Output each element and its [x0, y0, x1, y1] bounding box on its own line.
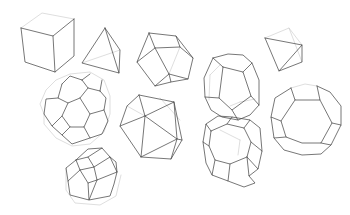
truncated-icosahedron-edge	[100, 80, 102, 91]
truncated-icosahedron-edge	[52, 126, 62, 135]
truncated-icosahedron-edge	[62, 76, 82, 84]
icosahedron-icon	[120, 95, 182, 159]
cuboctahedron-edge	[137, 48, 169, 86]
icosahedron-edge	[120, 116, 145, 157]
tetrahedron-edge	[82, 28, 119, 73]
rhombicuboctahedron-icon	[66, 148, 121, 205]
dodecahedron-edge	[219, 67, 251, 110]
truncated-cuboctahedron-edge	[209, 124, 251, 164]
truncated-octahedron-edge	[271, 88, 291, 117]
rhombicuboctahedron-half-edge	[88, 148, 110, 167]
truncated-octahedron-edge	[271, 117, 286, 138]
tetrahedron-edge	[82, 50, 120, 63]
rhombicuboctahedron-half-edge	[89, 172, 117, 200]
cuboctahedron-edge	[171, 79, 188, 82]
dodecahedron-edge	[210, 65, 220, 75]
cube-edge	[53, 36, 55, 72]
icosahedron-edge	[177, 139, 182, 140]
cuboctahedron-edge	[169, 47, 193, 79]
tetrahedron-icon	[82, 28, 120, 73]
octahedron-edge	[265, 38, 302, 71]
rhombicuboctahedron-half-edge	[94, 157, 117, 180]
rhombicuboctahedron-half-edge	[76, 157, 94, 170]
truncated-cuboctahedron-edge	[228, 176, 255, 187]
truncated-icosahedron-edge	[82, 74, 90, 80]
truncated-cuboctahedron-icon	[203, 116, 262, 187]
truncated-cuboctahedron-edge	[247, 157, 258, 176]
octahedron-edge	[265, 28, 302, 45]
truncated-icosahedron-icon	[40, 72, 110, 146]
icosahedron-edge	[141, 139, 177, 157]
dodecahedron-edge	[213, 58, 223, 67]
truncated-cuboctahedron-edge	[247, 142, 262, 169]
dodecahedron-icon	[204, 54, 259, 120]
cuboctahedron-edge	[169, 47, 180, 74]
truncated-octahedron-edge	[317, 86, 341, 125]
dodecahedron-edge	[209, 75, 210, 100]
truncated-octahedron-edge	[291, 86, 320, 100]
dodecahedron-edge	[251, 96, 259, 105]
cube-edge	[21, 19, 74, 36]
dodecahedron-edge	[232, 110, 238, 120]
icosahedron-edge	[139, 95, 174, 116]
dodecahedron-edge	[240, 99, 255, 102]
dodecahedron-edge	[243, 63, 252, 72]
truncated-octahedron-edge	[291, 84, 317, 88]
truncated-icosahedron-edge	[44, 98, 62, 126]
cube-edge	[21, 19, 74, 72]
cuboctahedron-edge	[149, 33, 180, 48]
rhombicuboctahedron-half-edge	[80, 170, 88, 183]
truncated-octahedron-edge	[281, 100, 332, 143]
truncated-icosahedron-edge	[58, 84, 88, 103]
truncated-octahedron-icon	[271, 84, 341, 155]
truncated-icosahedron-edge	[84, 110, 108, 138]
truncated-octahedron-edge	[321, 123, 341, 145]
icosahedron-edge	[141, 102, 182, 159]
octahedron-icon	[265, 28, 302, 71]
icosahedron-edge	[171, 139, 177, 159]
cube-icon	[21, 13, 74, 72]
icosahedron-edge	[145, 102, 177, 139]
truncated-cuboctahedron-edge	[203, 142, 212, 175]
truncated-cuboctahedron-edge	[220, 130, 240, 140]
cuboctahedron-icon	[137, 33, 193, 86]
polyhedra-diagram	[0, 0, 350, 215]
dodecahedron-edge	[205, 97, 219, 98]
truncated-icosahedron-edge	[90, 91, 106, 114]
truncated-cuboctahedron-edge	[238, 140, 240, 155]
truncated-icosahedron-edge	[82, 80, 100, 91]
icosahedron-edge	[120, 95, 139, 126]
